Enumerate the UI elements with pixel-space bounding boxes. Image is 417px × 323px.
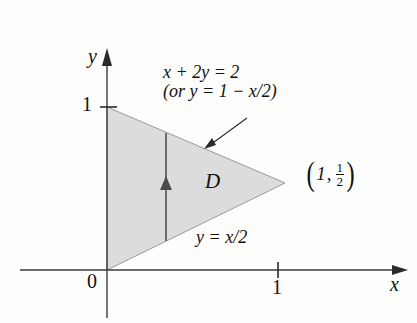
figure-canvas: y x 1 1 0 D x + 2y = 2 (or y = 1 − x/2) … [0,0,417,323]
y-axis-tick-label-1: 1 [82,94,92,115]
x-axis-label: x [390,274,399,295]
x-axis-tick-label-1: 1 [272,277,282,298]
vertex-coordinate-label: ( 1 , 1 2 ) [305,160,356,189]
region-label-d: D [205,170,220,192]
upper-boundary-leader-line [210,118,247,145]
vertex-close-paren: ) [347,160,355,189]
vertex-fraction-denominator: 2 [336,174,345,188]
vertex-x-value: 1 [316,164,326,184]
upper-boundary-equation: x + 2y = 2 (or y = 1 − x/2) [163,63,277,101]
upper-boundary-equation-primary: x + 2y = 2 [163,62,239,82]
y-axis-arrowhead [102,48,112,66]
vertex-comma: , [327,164,332,184]
vertex-open-paren: ( [307,160,315,189]
lower-boundary-equation: y = x/2 [196,228,247,247]
vertex-fraction-numerator: 1 [336,161,345,174]
upper-boundary-leader-arrowhead [204,138,216,149]
vertex-y-fraction: 1 2 [336,161,345,189]
y-axis-label: y [88,46,97,67]
upper-boundary-equation-alternate: (or y = 1 − x/2) [163,82,277,101]
origin-label: 0 [87,271,97,292]
